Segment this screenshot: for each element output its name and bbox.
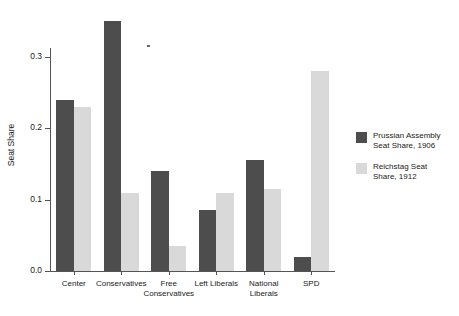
x-tick-mark bbox=[264, 271, 265, 275]
x-tick-mark bbox=[121, 271, 122, 275]
x-tick-mark bbox=[74, 271, 75, 275]
bar bbox=[311, 71, 329, 271]
bar bbox=[246, 160, 264, 271]
y-tick-label: 0.2 bbox=[0, 123, 42, 132]
y-tick-mark bbox=[45, 57, 50, 58]
bar bbox=[104, 21, 122, 271]
bar bbox=[264, 189, 282, 271]
legend-swatch-light bbox=[356, 163, 367, 174]
x-tick-mark bbox=[169, 271, 170, 275]
bar bbox=[169, 246, 187, 271]
y-tick-label: 0.3 bbox=[0, 52, 42, 61]
y-tick-mark bbox=[45, 128, 50, 129]
x-axis-line bbox=[50, 271, 335, 272]
bar bbox=[151, 171, 169, 271]
y-tick-label: 0.1 bbox=[0, 195, 42, 204]
x-tick-mark bbox=[216, 271, 217, 275]
legend-swatch-dark bbox=[356, 132, 367, 143]
bar bbox=[294, 257, 312, 271]
legend-label: Reichstag Seat Share, 1912 bbox=[373, 162, 427, 182]
raster-speck bbox=[147, 45, 150, 47]
y-tick-mark bbox=[45, 200, 50, 201]
bar bbox=[216, 193, 234, 271]
x-tick-label: SPD bbox=[280, 279, 344, 289]
bar-chart: Seat Share 0.00.10.20.3 CenterConservati… bbox=[0, 0, 459, 316]
y-axis-line bbox=[50, 48, 51, 272]
y-tick-mark bbox=[45, 271, 50, 272]
legend-item: Reichstag Seat Share, 1912 bbox=[356, 162, 456, 182]
bar bbox=[74, 107, 92, 271]
chart-legend: Prussian Assembly Seat Share, 1906Reichs… bbox=[356, 131, 456, 193]
x-tick-mark bbox=[311, 271, 312, 275]
legend-label: Prussian Assembly Seat Share, 1906 bbox=[373, 131, 441, 151]
bar bbox=[121, 193, 139, 271]
y-tick-label: 0.0 bbox=[0, 266, 42, 275]
legend-item: Prussian Assembly Seat Share, 1906 bbox=[356, 131, 456, 151]
bar bbox=[56, 100, 74, 271]
bar bbox=[199, 210, 217, 271]
